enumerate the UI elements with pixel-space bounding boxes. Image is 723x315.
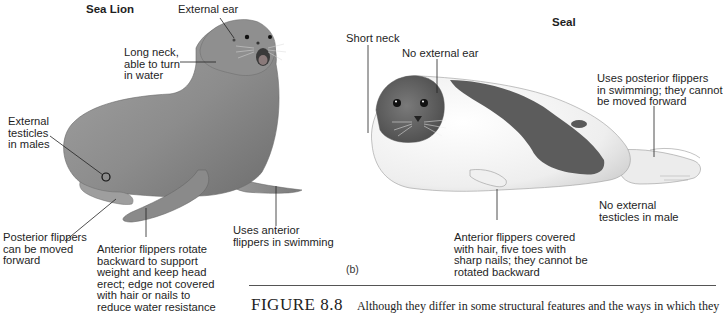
label-anterior-flippers-covered: Anterior flippers covered with hair, fiv…	[454, 232, 588, 278]
label-external-ear: External ear	[178, 4, 238, 16]
figure-caption: FIGURE 8.8Although they differ in some s…	[251, 295, 719, 315]
label-uses-anterior-flippers: Uses anterior flippers in swimming	[233, 225, 334, 248]
seal-title: Seal	[552, 16, 576, 28]
sea-lion-illustration	[64, 20, 302, 222]
label-short-neck: Short neck	[346, 33, 399, 45]
caption-text: Although they differ in some structural …	[357, 299, 719, 313]
label-long-neck: Long neck, able to turn in water	[124, 47, 180, 82]
label-uses-posterior-flippers: Uses posterior flippers in swimming; the…	[597, 73, 723, 108]
caption-divider	[249, 285, 716, 286]
label-anterior-flippers-rotate: Anterior flippers rotate backward to sup…	[97, 244, 216, 314]
label-no-external-testicles: No external testicles in male	[599, 200, 679, 223]
label-no-external-ear: No external ear	[402, 48, 479, 60]
label-external-testicles: External testicles in males	[8, 116, 50, 151]
sea-lion-title: Sea Lion	[86, 3, 134, 15]
label-posterior-flippers-forward: Posterior flippers can be moved forward	[3, 232, 87, 267]
panel-label-b: (b)	[346, 263, 359, 275]
figure-number: FIGURE 8.8	[251, 295, 343, 314]
